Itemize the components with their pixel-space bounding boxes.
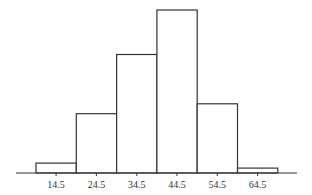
x-tick-label: 54.5 — [209, 179, 227, 190]
x-tick-label: 44.5 — [168, 179, 186, 190]
histogram-bar — [238, 168, 278, 173]
x-axis-tick-labels: 14.524.534.544.554.564.5 — [47, 179, 266, 190]
histogram-bar — [76, 114, 116, 173]
x-tick-label: 64.5 — [249, 179, 267, 190]
histogram-bar — [36, 163, 76, 173]
histogram-bar — [197, 104, 237, 173]
x-tick-label: 34.5 — [128, 179, 146, 190]
x-tick-label: 14.5 — [47, 179, 65, 190]
histogram-bar — [117, 55, 157, 174]
histogram-bars — [36, 10, 278, 173]
histogram-bar — [157, 10, 197, 173]
histogram-chart: 14.524.534.544.554.564.5 — [0, 0, 312, 195]
x-tick-label: 24.5 — [88, 179, 106, 190]
